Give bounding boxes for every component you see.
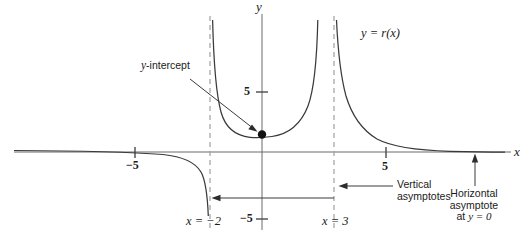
curve-label-close-paren: ) — [396, 26, 400, 40]
horizontal-asymptote-line3-math: y = 0 — [468, 210, 491, 222]
y-intercept-label-rest: -intercept — [146, 59, 190, 71]
asymptote-right-label: x = 3 — [322, 215, 348, 228]
rational-function-figure: y x 5 −5 −5 5 y = r(x) y-intercept Verti… — [0, 0, 530, 234]
curve-left-branch — [14, 151, 208, 217]
curve-middle-branch — [213, 20, 318, 138]
horizontal-asymptote-arrow — [472, 154, 478, 187]
vertical-asymptote-left-arrow — [212, 195, 335, 201]
asymptote-left-label: x = −2 — [186, 215, 221, 228]
horizontal-asymptote-line3-prefix: at — [457, 210, 469, 222]
vertical-asymptote-right-arrow — [339, 183, 394, 189]
x-tick-label-minus5: −5 — [126, 159, 139, 172]
horizontal-asymptote-line1: Horizontal — [424, 188, 524, 200]
horizontal-asymptote-label: Horizontal asymptote at y = 0 — [424, 188, 524, 223]
y-tick-label-minus5: −5 — [240, 212, 253, 225]
y-axis-label: y — [256, 0, 262, 14]
curve-label: y = r(x) — [361, 27, 400, 40]
y-tick-label-5: 5 — [244, 85, 250, 98]
x-tick-label-5: 5 — [382, 160, 388, 173]
y-intercept-point — [258, 130, 266, 138]
y-intercept-label: y-intercept — [141, 59, 190, 71]
curve-label-eq: = — [367, 26, 382, 40]
horizontal-asymptote-line3: at y = 0 — [424, 211, 524, 223]
x-axis-label: x — [514, 145, 520, 159]
